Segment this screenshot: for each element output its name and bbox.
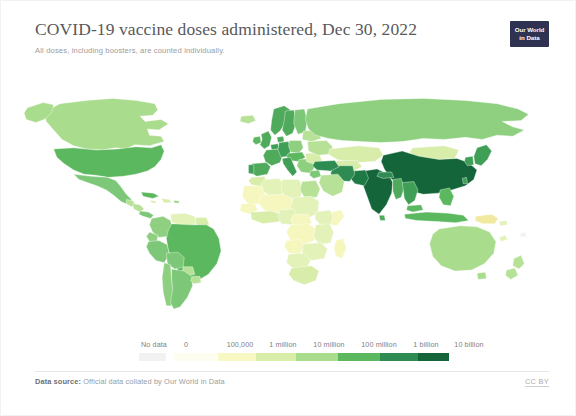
- logo-line-2: in Data: [519, 35, 539, 41]
- country-kazakhstan[interactable]: [328, 146, 383, 163]
- chart-header: COVID-19 vaccine doses administered, Dec…: [35, 19, 541, 56]
- country-russia[interactable]: [305, 98, 528, 142]
- legend-color-bar[interactable]: [139, 353, 449, 361]
- country-madagascar[interactable]: [334, 238, 347, 258]
- chart-footer: Data source: Official data collated by O…: [35, 377, 549, 386]
- country-mexico[interactable]: [74, 174, 132, 205]
- country-sri-lanka[interactable]: [379, 215, 385, 220]
- country-argentina[interactable]: [171, 269, 193, 309]
- legend-tick-1-billion: 1 billion: [413, 340, 438, 349]
- country-peru[interactable]: [146, 241, 169, 263]
- country-hispaniola[interactable]: [161, 198, 172, 202]
- world-choropleth-map[interactable]: [23, 71, 555, 329]
- country-finland[interactable]: [294, 109, 308, 134]
- country-denmark[interactable]: [277, 136, 284, 142]
- legend-tick-1-million: 1 million: [269, 340, 296, 349]
- country-costa-rica-panama[interactable]: [139, 211, 154, 218]
- country-angola[interactable]: [284, 239, 304, 254]
- data-source-text: Data source: Official data collated by O…: [35, 377, 225, 386]
- legend-tick-0: 0: [184, 340, 188, 349]
- country-taiwan[interactable]: [462, 177, 467, 183]
- country-solomon-islands[interactable]: [499, 221, 507, 226]
- logo-line-1: Our World: [515, 27, 545, 33]
- legend-swatch-0[interactable]: [174, 353, 218, 361]
- legend-tick-100-million: 100 million: [361, 340, 396, 349]
- country-west-africa-coast[interactable]: [251, 211, 282, 224]
- country-poland[interactable]: [288, 141, 303, 154]
- country-jamaica[interactable]: [151, 201, 156, 204]
- country-malaysia[interactable]: [406, 205, 423, 212]
- chart-frame: COVID-19 vaccine doses administered, Dec…: [0, 0, 576, 416]
- country-somalia[interactable]: [331, 210, 345, 226]
- country-honduras-nicaragua[interactable]: [133, 204, 145, 212]
- legend-swatch-100000[interactable]: [218, 353, 256, 361]
- chart-subtitle: All doses, including boosters, are count…: [35, 46, 541, 56]
- license-link[interactable]: CC BY: [525, 377, 549, 386]
- legend-swatch-10-billion[interactable]: [418, 353, 449, 361]
- legend-swatch-1-billion[interactable]: [380, 353, 418, 361]
- country-portugal[interactable]: [248, 165, 253, 174]
- country-united-kingdom[interactable]: [260, 131, 272, 149]
- country-new-zealand[interactable]: [513, 255, 525, 269]
- legend-tick-labels: No data 0 100,000 1 million 10 million 1…: [139, 340, 449, 351]
- footer-divider: [35, 371, 549, 372]
- country-iceland[interactable]: [240, 115, 256, 123]
- country-new-zealand-south[interactable]: [505, 268, 518, 280]
- country-kenya-tanzania[interactable]: [314, 224, 334, 245]
- country-south-africa[interactable]: [288, 266, 319, 285]
- country-egypt[interactable]: [300, 181, 320, 198]
- country-thailand-vietnam[interactable]: [402, 182, 418, 205]
- legend-swatch-no-data[interactable]: [139, 353, 166, 361]
- country-tasmania[interactable]: [477, 272, 486, 279]
- country-papua-new-guinea[interactable]: [475, 214, 498, 223]
- country-puerto-rico[interactable]: [174, 201, 179, 204]
- country-ireland[interactable]: [253, 136, 261, 144]
- data-source-label: Data source:: [35, 377, 81, 386]
- legend-label-no-data: No data: [141, 340, 167, 349]
- country-indonesia[interactable]: [404, 212, 468, 223]
- legend-swatch-10-million[interactable]: [296, 353, 338, 361]
- country-japan[interactable]: [474, 145, 492, 166]
- world-map-svg[interactable]: [23, 71, 555, 329]
- country-canada[interactable]: [44, 98, 168, 150]
- country-fiji[interactable]: [520, 232, 526, 237]
- legend-swatch-1-million[interactable]: [256, 353, 296, 361]
- country-new-caledonia[interactable]: [499, 235, 507, 241]
- country-greenland[interactable]: [180, 83, 225, 124]
- map-legend[interactable]: No data 0 100,000 1 million 10 million 1…: [139, 340, 449, 362]
- our-world-in-data-logo[interactable]: Our World in Data: [510, 21, 549, 47]
- country-united-states[interactable]: [54, 145, 165, 178]
- legend-swatch-100-million[interactable]: [338, 353, 380, 361]
- data-source-value: Official data collated by Our World in D…: [83, 377, 225, 386]
- country-greece[interactable]: [310, 170, 322, 178]
- country-australia[interactable]: [430, 226, 496, 271]
- page-title: COVID-19 vaccine doses administered, Dec…: [35, 19, 541, 39]
- country-philippines[interactable]: [439, 188, 454, 206]
- country-cuba[interactable]: [141, 192, 159, 198]
- legend-tick-10-billion: 10 billion: [454, 340, 483, 349]
- legend-tick-10-million: 10 million: [313, 340, 344, 349]
- legend-tick-100000: 100,000: [227, 340, 254, 349]
- country-saudi-arabia[interactable]: [319, 174, 344, 196]
